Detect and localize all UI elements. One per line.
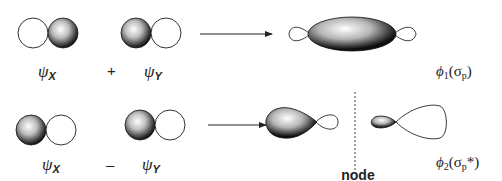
shaded-lobe [125, 110, 155, 140]
psi-y-p-orbital [125, 110, 185, 140]
shaded-lobe [48, 18, 78, 48]
right-small-lobe [394, 27, 416, 41]
row-bonding: ψX + ψY ϕ1(σp) [18, 17, 472, 82]
phi1-sigma-p-label: ϕ1(σp) [436, 63, 472, 81]
psi-y-label: ψY [142, 155, 162, 175]
shaded-lobe [16, 115, 46, 145]
unshaded-lobe [155, 110, 185, 140]
row-antibonding: ψX – ψY node ϕ2(σp*) [16, 92, 479, 181]
psi-y-label: ψY [144, 62, 164, 82]
sigma-antibonding-right-fragment [371, 105, 446, 139]
psi-x-p-orbital [16, 115, 76, 145]
left-large-shaded-lobe [266, 108, 317, 139]
orbital-diagram: ψX + ψY ϕ1(σp) ψX – ψY [0, 0, 502, 181]
right-large-unshaded-lobe [396, 105, 446, 139]
node-label: node [341, 167, 375, 181]
central-shaded-lobe [308, 17, 396, 51]
right-small-shaded-lobe [371, 116, 396, 128]
phi2-sigma-p-star-label: ϕ2(σp*) [436, 154, 479, 172]
psi-x-label: ψX [38, 62, 57, 82]
sigma-bonding-orbital [289, 17, 416, 51]
left-small-lobe [289, 27, 310, 41]
left-small-lobe [316, 115, 338, 129]
unshaded-lobe [151, 18, 181, 48]
sigma-antibonding-left-fragment [266, 108, 338, 139]
unshaded-lobe [18, 18, 48, 48]
plus-operator: + [107, 62, 116, 79]
psi-y-p-orbital [121, 18, 181, 48]
minus-operator: – [106, 156, 115, 173]
shaded-lobe [121, 18, 151, 48]
psi-x-label: ψX [42, 155, 61, 175]
psi-x-p-orbital [18, 18, 78, 48]
unshaded-lobe [46, 115, 76, 145]
